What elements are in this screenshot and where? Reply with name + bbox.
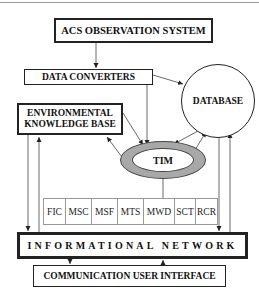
module-mts: MTS (118, 199, 144, 224)
module-mwd: MWD (144, 199, 175, 224)
module-rcr: RCR (196, 199, 217, 224)
tim-ellipse: TIM (132, 148, 194, 172)
module-row: FIC MSC MSF MTS MWD SCT RCR (43, 198, 218, 225)
module-msc: MSC (66, 199, 92, 224)
communication-user-interface-label: COMMUNICATION USER INTERFACE (43, 271, 215, 281)
informational-network-label: INFORMATIONAL NETWORK (27, 240, 237, 251)
module-msf: MSF (92, 199, 118, 224)
database-circle: DATABASE (181, 64, 255, 138)
acs-observation-system-box: ACS OBSERVATION SYSTEM (54, 18, 213, 43)
tim-label: TIM (153, 155, 173, 166)
ekb-label-line2: KNOWLEDGE BASE (24, 119, 116, 130)
environmental-knowledge-base-box: ENVIRONMENTAL KNOWLEDGE BASE (17, 103, 123, 135)
module-sct: SCT (175, 199, 196, 224)
communication-user-interface-box: COMMUNICATION USER INTERFACE (33, 265, 226, 287)
acs-observation-system-label: ACS OBSERVATION SYSTEM (61, 25, 206, 36)
informational-network-box: INFORMATIONAL NETWORK (17, 232, 248, 259)
data-converters-label: DATA CONVERTERS (42, 72, 135, 82)
ekb-label-line1: ENVIRONMENTAL (27, 108, 113, 119)
module-fic: FIC (44, 199, 66, 224)
database-label: DATABASE (193, 96, 243, 106)
data-converters-box: DATA CONVERTERS (24, 69, 153, 85)
